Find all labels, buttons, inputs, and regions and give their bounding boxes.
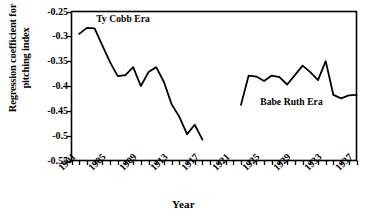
x-axis-tick-label: 1905 <box>86 151 108 173</box>
x-axis-tick-label: 1901 <box>56 151 78 173</box>
x-axis-tick-label: 1917 <box>179 151 201 173</box>
x-axis-tick-labels: 1901190519091913191719211925192919331937 <box>0 0 367 217</box>
x-axis-tick-label: 1929 <box>271 151 293 173</box>
x-axis-title: Year <box>0 198 367 210</box>
x-axis-tick-label: 1921 <box>210 151 232 173</box>
chart-figure: Regression coefficient for pitching inde… <box>0 0 367 217</box>
x-axis-tick-label: 1909 <box>117 151 139 173</box>
x-axis-tick-label: 1933 <box>302 151 324 173</box>
x-axis-tick-label: 1937 <box>333 151 355 173</box>
x-axis-tick-label: 1925 <box>240 151 262 173</box>
x-axis-tick-label: 1913 <box>148 151 170 173</box>
